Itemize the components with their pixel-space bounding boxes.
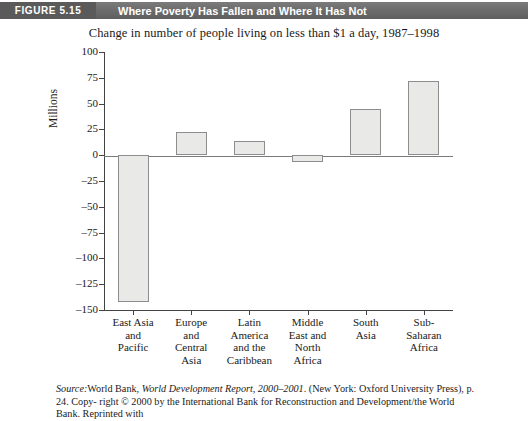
y-axis-tick (99, 155, 105, 156)
y-axis-tick-label: 50 (58, 98, 98, 109)
x-axis-label-line: North (279, 341, 337, 354)
y-axis-tick (99, 78, 105, 79)
source-note: Source:World Bank, World Development Rep… (56, 383, 480, 421)
chart-title: Change in number of people living on les… (0, 26, 528, 41)
x-axis-label-line: and (104, 329, 162, 342)
y-axis-tick-label: 25 (58, 123, 98, 134)
source-publication-title: World Development Report, 2000–2001 (142, 383, 304, 394)
x-axis-label-line: Sub- (395, 316, 453, 329)
x-axis-label-line: and (162, 329, 220, 342)
source-label: Source: (56, 383, 87, 394)
x-axis-category-label: MiddleEast andNorthAfrica (279, 316, 337, 366)
chart-bar (176, 132, 207, 155)
x-axis-label-line: Central (162, 341, 220, 354)
y-axis-tick (99, 233, 105, 234)
chart-bar (118, 155, 149, 302)
x-axis-tick (249, 310, 250, 315)
x-axis-category-label: SouthAsia (337, 316, 395, 341)
x-axis-label-line: Africa (395, 341, 453, 354)
zero-baseline (104, 156, 453, 157)
x-axis-category-label: LatinAmericaand theCaribbean (220, 316, 278, 366)
x-axis-label-line: Caribbean (220, 354, 278, 367)
x-axis-label-line: Asia (162, 354, 220, 367)
figure-title: Where Poverty Has Fallen and Where It Ha… (118, 5, 367, 17)
chart-plot-area (104, 52, 453, 310)
y-axis-tick-label: –100 (58, 252, 98, 263)
x-axis-category-labels: East AsiaandPacificEuropeandCentralAsiaL… (104, 316, 453, 376)
y-axis-tick (99, 129, 105, 130)
figure-header-band: FIGURE 5.15 Where Poverty Has Fallen and… (0, 2, 528, 19)
x-axis-category-label: EuropeandCentralAsia (162, 316, 220, 366)
x-axis-label-line: and the (220, 341, 278, 354)
y-axis-tick (99, 207, 105, 208)
y-axis-tick-label: 0 (58, 149, 98, 160)
y-axis-tick (99, 181, 105, 182)
x-axis-tick (424, 310, 425, 315)
x-axis-label-line: East and (279, 329, 337, 342)
x-axis-line (104, 310, 453, 311)
y-axis-tick (99, 310, 105, 311)
x-axis-tick (191, 310, 192, 315)
source-text-a: World Bank, (87, 383, 141, 394)
y-axis-tick-label: 75 (58, 72, 98, 83)
y-axis-tick (99, 52, 105, 53)
y-axis-tick-label: –25 (58, 175, 98, 186)
chart-bar (292, 155, 323, 162)
x-axis-category-label: East AsiaandPacific (104, 316, 162, 354)
x-axis-label-line: America (220, 329, 278, 342)
figure-number-label: FIGURE 5.15 (15, 5, 82, 16)
x-axis-tick (133, 310, 134, 315)
chart-bar (234, 141, 265, 155)
x-axis-label-line: Asia (337, 329, 395, 342)
x-axis-category-label: Sub-SaharanAfrica (395, 316, 453, 354)
y-axis-tick-label: –75 (58, 227, 98, 238)
y-axis-tick-label: –150 (58, 304, 98, 315)
chart-bar (408, 81, 439, 155)
y-axis-tick-labels: 1007550250–25–50–75–100–125–150 (56, 52, 98, 310)
x-axis-tick (308, 310, 309, 315)
x-axis-label-line: South (337, 316, 395, 329)
x-axis-label-line: Europe (162, 316, 220, 329)
x-axis-label-line: Middle (279, 316, 337, 329)
figure-number-block: FIGURE 5.15 (0, 2, 96, 19)
y-axis-tick-label: –125 (58, 278, 98, 289)
x-axis-label-line: East Asia (104, 316, 162, 329)
y-axis-tick (99, 104, 105, 105)
x-axis-tick (366, 310, 367, 315)
x-axis-label-line: Saharan (395, 329, 453, 342)
x-axis-label-line: Africa (279, 354, 337, 367)
y-axis-tick (99, 258, 105, 259)
y-axis-tick-label: –50 (58, 201, 98, 212)
x-axis-label-line: Pacific (104, 341, 162, 354)
source-text-line2: right © 2000 by the International Bank f… (56, 396, 454, 420)
x-axis-label-line: Latin (220, 316, 278, 329)
y-axis-tick (99, 284, 105, 285)
chart-bar (350, 109, 381, 155)
y-axis-tick-label: 100 (58, 46, 98, 57)
